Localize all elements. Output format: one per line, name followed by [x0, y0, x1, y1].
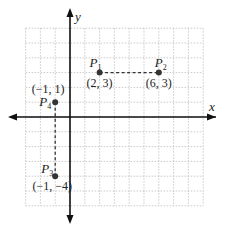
- point-P3-name: P3: [40, 161, 53, 178]
- point-P4-coordinates: (−1, 1): [32, 82, 65, 96]
- y-axis-down-arrow-icon: [67, 215, 74, 224]
- point-P4-name: P4: [38, 94, 51, 111]
- x-axis-right-arrow-icon: [207, 114, 216, 121]
- y-axis-label: y: [73, 9, 81, 24]
- point-P2-coordinates: (6, 3): [146, 76, 172, 90]
- point-P1-name: P1: [89, 55, 102, 72]
- point-P4-dot: [52, 99, 58, 105]
- point-P1-coordinates: (2, 3): [87, 76, 113, 90]
- x-axis-label: x: [208, 99, 215, 114]
- point-P3-coordinates: (−1, −4): [32, 179, 72, 193]
- coordinate-plane: x y P1(2, 3)P2(6, 3)P3(−1, −4)P4(−1, 1): [0, 0, 226, 230]
- x-axis-left-arrow-icon: [8, 114, 17, 121]
- point-P2-name: P2: [154, 55, 167, 72]
- points: P1(2, 3)P2(6, 3)P3(−1, −4)P4(−1, 1): [32, 55, 172, 194]
- y-axis-up-arrow-icon: [67, 8, 74, 17]
